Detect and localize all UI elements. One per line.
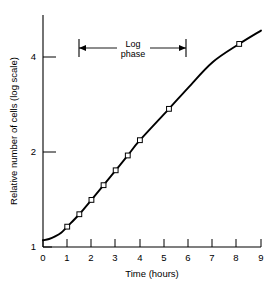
- data-point-marker: [77, 212, 82, 217]
- x-tick-label: 0: [40, 252, 45, 263]
- log-phase-annotation: Log phase: [79, 39, 186, 59]
- data-point-marker: [65, 224, 70, 229]
- arrow-right-icon: [179, 45, 186, 51]
- x-tick-label: 7: [209, 252, 214, 263]
- x-tick-label: 2: [88, 252, 93, 263]
- data-point-marker: [167, 106, 172, 111]
- data-point-marker: [137, 138, 142, 143]
- growth-curve-line: [43, 31, 261, 241]
- y-tick-labels: 1 2 4: [31, 51, 36, 252]
- log-phase-label-line1: Log: [125, 39, 140, 49]
- x-tick-label: 8: [233, 252, 238, 263]
- growth-curve-figure: 0 1 2 3 4 5 6 7 8 9 1 2 4 Time (hours) R…: [0, 0, 275, 285]
- log-phase-label-line2: phase: [121, 49, 146, 59]
- x-axis-ticks: [43, 239, 261, 247]
- arrow-left-icon: [79, 45, 86, 51]
- x-tick-label: 3: [112, 252, 117, 263]
- y-tick-label: 2: [31, 146, 36, 157]
- y-axis-ticks: [43, 57, 56, 247]
- x-axis-title: Time (hours): [125, 268, 179, 279]
- y-tick-label: 1: [31, 241, 36, 252]
- x-tick-label: 4: [137, 252, 142, 263]
- data-point-marker: [101, 183, 106, 188]
- x-tick-label: 1: [64, 252, 69, 263]
- x-tick-label: 9: [258, 252, 263, 263]
- chart-canvas: 0 1 2 3 4 5 6 7 8 9 1 2 4 Time (hours) R…: [0, 0, 275, 285]
- y-tick-label: 4: [31, 51, 36, 62]
- data-point-markers: [65, 42, 242, 230]
- data-point-marker: [89, 198, 94, 203]
- x-tick-labels: 0 1 2 3 4 5 6 7 8 9: [40, 252, 263, 263]
- data-point-marker: [125, 153, 130, 158]
- data-point-marker: [113, 168, 118, 173]
- data-point-marker: [237, 42, 242, 47]
- y-axis-title: Relative number of cells (log scale): [8, 57, 19, 205]
- x-tick-label: 5: [161, 252, 166, 263]
- x-tick-label: 6: [185, 252, 190, 263]
